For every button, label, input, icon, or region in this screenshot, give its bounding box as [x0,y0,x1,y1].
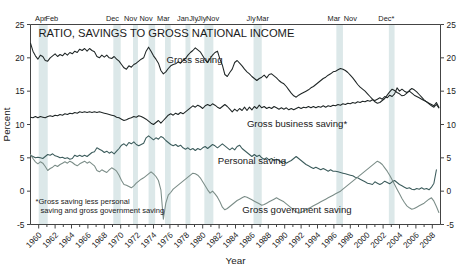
series-annotation: Gross saving [167,54,223,65]
y-tick-label: -5 [17,220,25,230]
top-axis-label: Nov [206,14,219,23]
y-tick-label-right: 15 [447,86,457,96]
top-axis-label: Mar [157,14,170,23]
top-axis-label: Mar [256,14,269,23]
top-axis-label: Nov [344,14,357,23]
top-axis-label: Feb [45,14,58,23]
recession-band [39,25,48,225]
x-axis-title: Year [226,255,247,266]
y-tick-label-right: 20 [447,53,457,63]
chart-title: RATIO, SAVINGS TO GROSS NATIONAL INCOME [39,27,295,39]
y-tick-label-right: -5 [447,220,455,230]
recession-band [113,25,120,225]
top-axis-label: Mar [328,14,341,23]
y-tick-label: 25 [15,20,25,30]
recession-band [133,25,138,225]
y-tick-label-right: 25 [447,20,457,30]
y-tick-label-right: 5 [447,153,452,163]
y-tick-label: 20 [15,53,25,63]
y-tick-label: 15 [15,86,25,96]
chart-figure: -5-5005510101515202025251960196219641966… [0,0,472,270]
y-axis-title: Percent [1,107,12,141]
recession-band [389,25,395,225]
top-axis-label: Dec* [378,14,394,23]
chart-svg: -5-5005510101515202025251960196219641966… [0,0,472,270]
top-axis-label: Nov [140,14,153,23]
top-axis-label: Jly [247,14,256,23]
y-tick-label: 10 [15,120,25,130]
series-annotation: Gross government saving [242,204,351,215]
top-axis-label: Dec [106,14,119,23]
chart-background [0,0,472,270]
footnote-line-1: *Gross saving less personal [36,197,130,206]
top-axis-label: Nov [124,14,137,23]
series-annotation: Personal saving [218,155,286,166]
series-annotation: Gross business saving* [247,118,348,129]
y-tick-label: 5 [20,153,25,163]
y-tick-label-right: 10 [447,120,457,130]
footnote-line-2: saving and gross government saving [41,206,165,215]
y-tick-label-right: 0 [447,186,452,196]
top-axis-label: Jan [177,14,189,23]
y-tick-label: 0 [20,186,25,196]
